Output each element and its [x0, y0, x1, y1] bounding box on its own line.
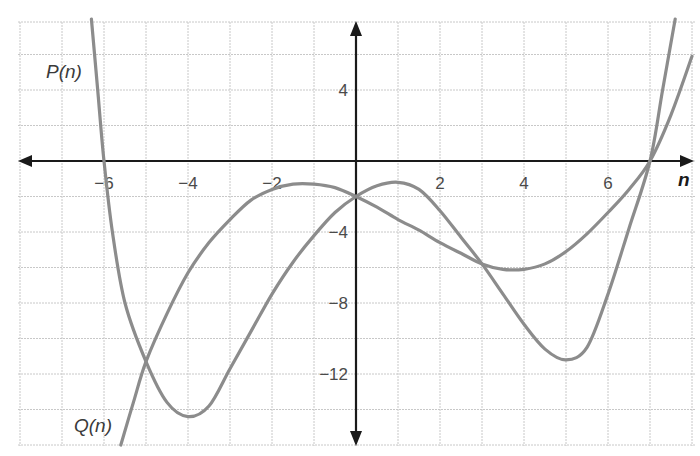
- label-q: Q(n): [74, 415, 112, 436]
- x-tick-label: 6: [603, 174, 612, 193]
- y-tick-label: −12: [319, 365, 348, 384]
- x-tick-label: −6: [94, 174, 113, 193]
- axes: [18, 21, 694, 446]
- x-tick-label: 2: [435, 174, 444, 193]
- x-axis-left-arrow-icon: [18, 155, 32, 167]
- curve-p: [91, 19, 675, 417]
- y-tick-label: 4: [339, 81, 348, 100]
- y-tick-label: −8: [329, 294, 348, 313]
- x-tick-label: 4: [519, 174, 528, 193]
- y-axis-up-arrow-icon: [350, 21, 362, 36]
- x-axis-label: n: [678, 169, 690, 190]
- y-tick-label: −4: [329, 223, 348, 242]
- curve-q: [121, 56, 692, 445]
- y-axis-down-arrow-icon: [350, 431, 362, 446]
- label-p: P(n): [46, 61, 82, 82]
- x-axis-right-arrow-icon: [680, 155, 694, 167]
- chart: −6−4−22464−4−8−12 P(n) Q(n) n: [0, 0, 700, 456]
- x-tick-label: −4: [178, 174, 197, 193]
